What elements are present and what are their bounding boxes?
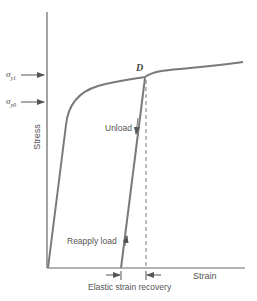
point-d-label: D — [135, 62, 143, 73]
sigma-y0-label: σy0 — [6, 96, 16, 108]
stress-strain-diagram: σy1 σy0 D Unload Reapply load Stress Str… — [0, 0, 257, 301]
unload-label: Unload — [105, 123, 132, 133]
elastic-recovery-label: Elastic strain recovery — [88, 282, 172, 292]
unload-line — [121, 78, 145, 268]
reapply-load-label: Reapply load — [67, 236, 117, 246]
y-axis-label: Stress — [32, 124, 42, 150]
x-axis-label: Strain — [193, 271, 217, 281]
sigma-y1-label: σy1 — [6, 69, 16, 81]
